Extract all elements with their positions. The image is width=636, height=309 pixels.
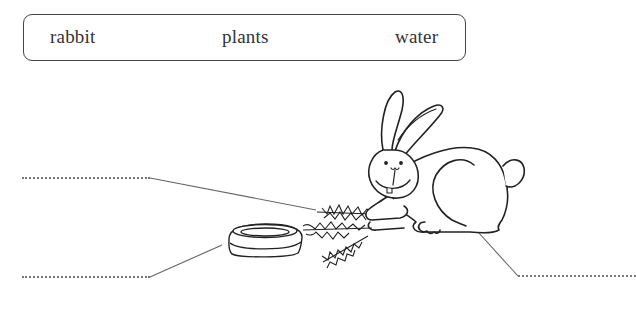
illustration [0,0,636,309]
answer-blank-rabbit[interactable] [518,275,636,277]
leader-line-plants [150,178,316,210]
leader-line-rabbit [478,232,518,276]
water-bowl-drawing [229,224,302,257]
plants-drawing [303,205,373,268]
answer-blank-plants[interactable] [22,177,150,179]
rabbit-drawing [366,91,524,233]
answer-blank-water[interactable] [22,276,150,278]
leader-line-bowl [150,245,222,277]
